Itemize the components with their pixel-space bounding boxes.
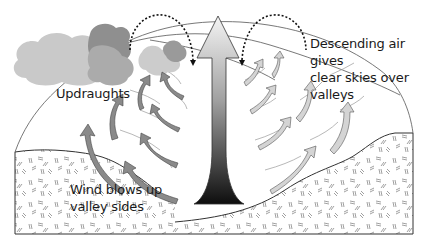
wind-label-line1: Wind blows up bbox=[70, 181, 162, 198]
updraughts-label: Updraughts bbox=[56, 85, 130, 102]
small-cloud-center bbox=[139, 40, 187, 75]
arc-arrowhead-left bbox=[190, 60, 196, 66]
large-cloud-left bbox=[14, 24, 134, 86]
descending-air-label: Descending air gives clear skies over va… bbox=[310, 35, 437, 103]
wind-label: Wind blows up valley sides bbox=[70, 181, 162, 215]
descending-air-label-line1: Descending air gives bbox=[310, 35, 437, 69]
descending-air-label-line2: clear skies over valleys bbox=[310, 69, 437, 103]
rising-air-arrow bbox=[194, 16, 244, 204]
wind-label-line2: valley sides bbox=[70, 198, 162, 215]
valley-wind-diagram: Updraughts Descending air gives clear sk… bbox=[0, 0, 437, 247]
